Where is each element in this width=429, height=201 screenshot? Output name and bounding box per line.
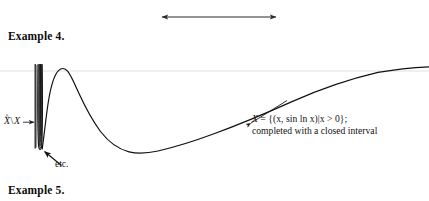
example-figure-panel: Example 4. ^X\X etc. X = {(x, sin ln x)|…: [0, 0, 429, 201]
example-4-heading: Example 4.: [8, 30, 64, 43]
annotation-set-definition: = {(x, sin ln x)|x > 0};: [258, 113, 347, 124]
example-5-heading: Example 5.: [8, 184, 64, 197]
etc-label: etc.: [55, 159, 68, 170]
annotation-line-1: X = {(x, sin ln x)|x > 0};: [252, 114, 377, 125]
infinite-oscillation-band: [38, 65, 43, 150]
x-symbol: X: [14, 115, 20, 126]
set-difference-label: ^X\X: [4, 115, 20, 126]
sin-ln-x-curve: [42, 67, 429, 153]
hat-accent: ^: [5, 112, 9, 122]
annotation-line-2: completed with a closed interval: [252, 126, 377, 137]
x-hat-symbol: ^X: [4, 115, 10, 126]
curve-set-annotation: X = {(x, sin ln x)|x > 0}; completed wit…: [252, 114, 377, 137]
